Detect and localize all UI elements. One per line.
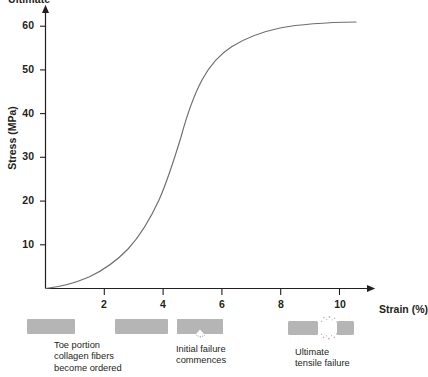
solid-block-icon <box>115 319 168 334</box>
y-tick-label: 50 <box>10 63 34 75</box>
y-tick-label: 60 <box>10 19 34 31</box>
fractured-block-icon <box>288 316 354 338</box>
stress-strain-chart: Ultimate <box>0 0 428 377</box>
annotation-toe-portion: Toe portion collagen fibers become order… <box>27 319 122 374</box>
x-axis-ticks <box>104 289 339 296</box>
annotation-ordered-fibers <box>115 319 168 334</box>
annotation-ultimate-failure: Ultimate tensile failure <box>288 316 354 370</box>
annotation-label: Toe portion collagen fibers become order… <box>54 340 122 374</box>
y-axis-title: Stress (MPa) <box>6 98 18 178</box>
x-axis-title: Strain (%) <box>379 303 428 315</box>
solid-block-icon <box>27 319 75 334</box>
stress-strain-curve <box>46 22 357 289</box>
y-tick-label: 20 <box>10 194 34 206</box>
annotation-label: Ultimate tensile failure <box>295 347 354 370</box>
x-tick-label: 10 <box>330 298 350 310</box>
annotation-label: Initial failure commences <box>176 344 226 367</box>
y-tick-label: 10 <box>10 238 34 250</box>
x-tick-label: 4 <box>153 298 173 310</box>
annotation-initial-failure: Initial failure commences <box>177 319 226 367</box>
x-tick-label: 2 <box>94 298 114 310</box>
x-tick-label: 8 <box>271 298 291 310</box>
x-tick-label: 6 <box>212 298 232 310</box>
notched-block-icon <box>177 319 223 337</box>
